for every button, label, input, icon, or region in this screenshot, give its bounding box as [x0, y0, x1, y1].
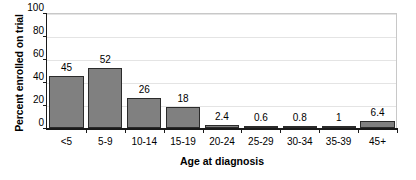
bar-group: 6.4 [358, 14, 397, 128]
x-axis-tick-label: 45+ [358, 136, 397, 148]
bar-value-label: 1 [319, 112, 358, 123]
x-axis-tick-mark [203, 129, 204, 133]
x-axis-tick-label: 30-34 [280, 136, 319, 148]
x-axis-tick-label: 20-24 [203, 136, 242, 148]
x-axis-tick-label: 35-39 [319, 136, 358, 148]
x-axis-tick-mark [125, 129, 126, 133]
bar [322, 126, 356, 128]
bar-value-label: 2.4 [203, 111, 242, 122]
bar [244, 126, 278, 128]
bar [49, 76, 83, 128]
bar-series: 455226182.40.60.816.4 [47, 14, 396, 128]
bar [88, 68, 122, 128]
bar [283, 126, 317, 128]
x-axis-tick-label: 10-14 [125, 136, 164, 148]
bar-value-label: 52 [86, 54, 125, 65]
x-axis-title: Age at diagnosis [47, 155, 397, 167]
bar-group: 18 [164, 14, 203, 128]
bar [166, 107, 200, 128]
plot-area: 455226182.40.60.816.4 [47, 13, 397, 128]
bar-value-label: 0.8 [280, 112, 319, 123]
y-axis-tick-label: 40 [33, 72, 44, 82]
x-axis-tick-label: 25-29 [241, 136, 280, 148]
x-axis-tick-label: 15-19 [164, 136, 203, 148]
bar-value-label: 26 [125, 84, 164, 95]
bar-chart-figure: Percent enrolled on trial 020406080100 4… [0, 0, 416, 180]
bar-group: 0.6 [241, 14, 280, 128]
bar-value-label: 18 [164, 93, 203, 104]
x-axis-tick-mark [358, 129, 359, 133]
x-axis-tick-label: 5-9 [86, 136, 125, 148]
y-axis-tick-label-group: 020406080100 [18, 8, 44, 128]
y-axis-tick-label: 0 [38, 118, 44, 128]
x-axis-line [46, 128, 398, 130]
x-axis-tick-mark [164, 129, 165, 133]
bar [205, 125, 239, 128]
y-axis-tick-label: 100 [27, 3, 44, 13]
x-axis-tick-mark [319, 129, 320, 133]
bar-value-label: 6.4 [358, 107, 397, 118]
x-axis-tick-mark [241, 129, 242, 133]
bar-group: 0.8 [280, 14, 319, 128]
bar [127, 98, 161, 128]
x-axis-tick-label-group: <55-910-1415-1920-2425-2930-3435-3945+ [47, 136, 397, 150]
bar-group: 52 [86, 14, 125, 128]
bar-group: 2.4 [203, 14, 242, 128]
bar-group: 1 [319, 14, 358, 128]
bar-group: 45 [47, 14, 86, 128]
bar-group: 26 [125, 14, 164, 128]
x-axis-tick-mark [397, 129, 398, 133]
y-axis-tick-label: 20 [33, 95, 44, 105]
bar-value-label: 45 [47, 62, 86, 73]
y-axis-tick-label: 80 [33, 26, 44, 36]
bar [360, 121, 394, 128]
x-axis-tick-label: <5 [47, 136, 86, 148]
x-axis-tick-mark [280, 129, 281, 133]
y-axis-tick-label: 60 [33, 49, 44, 59]
bar-value-label: 0.6 [241, 112, 280, 123]
x-axis-tick-mark [86, 129, 87, 133]
